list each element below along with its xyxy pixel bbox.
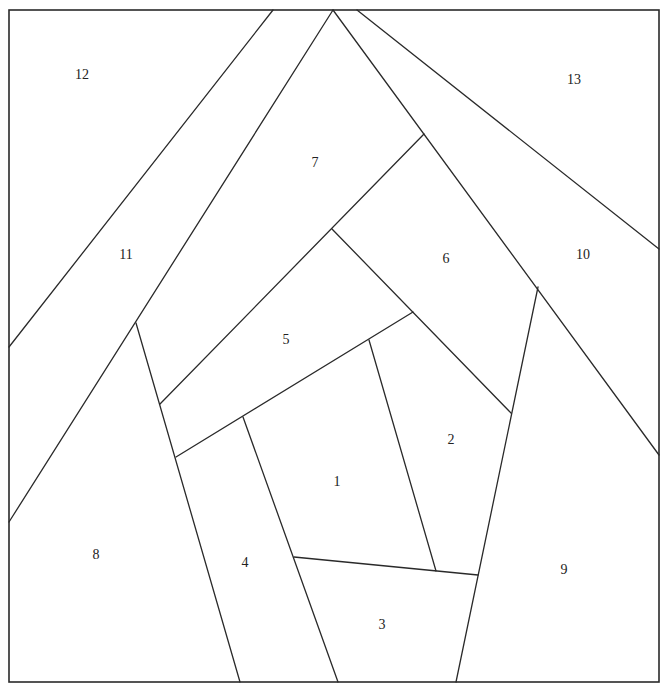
piece-label-2: 2 — [448, 432, 455, 447]
piece-label-4: 4 — [242, 555, 249, 570]
piece-label-11: 11 — [119, 247, 132, 262]
quilt-block-diagram: 12345678910111213 — [0, 0, 663, 684]
piece-label-7: 7 — [312, 155, 319, 170]
piece-label-5: 5 — [283, 332, 290, 347]
piece-label-10: 10 — [576, 247, 590, 262]
piece-label-13: 13 — [567, 72, 581, 87]
piece-label-3: 3 — [379, 617, 386, 632]
piece-label-9: 9 — [561, 562, 568, 577]
piece-label-1: 1 — [334, 474, 341, 489]
block-frame — [9, 10, 659, 682]
piece-label-6: 6 — [443, 251, 450, 266]
piece-label-8: 8 — [93, 547, 100, 562]
piece-label-12: 12 — [75, 67, 89, 82]
